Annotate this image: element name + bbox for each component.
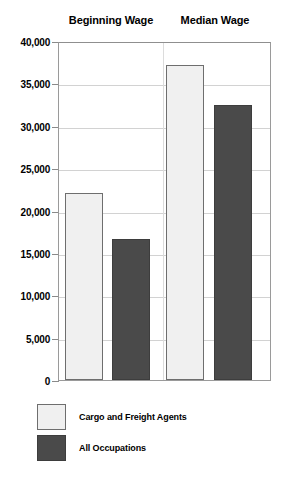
- legend-label-cargo-and-freight-agents: Cargo and Freight Agents: [79, 412, 187, 422]
- bar: [112, 239, 150, 380]
- y-axis-tick-label: 0: [0, 376, 50, 387]
- group-header-beginning-wage: Beginning Wage: [56, 14, 166, 26]
- legend-label-all-occupations: All Occupations: [79, 443, 146, 453]
- y-axis-tick-label: 35,000: [0, 79, 50, 90]
- y-axis-tick-label: 15,000: [0, 248, 50, 259]
- bar-chart: Beginning Wage Median Wage 05,00010,0001…: [0, 0, 288, 479]
- y-axis-tick-label: 20,000: [0, 206, 50, 217]
- group-header-median-wage: Median Wage: [160, 14, 270, 26]
- gridline: [59, 85, 270, 86]
- bar: [65, 193, 103, 380]
- y-axis-tick-label: 30,000: [0, 121, 50, 132]
- bar: [166, 65, 204, 380]
- y-axis-tick-label: 40,000: [0, 37, 50, 48]
- y-axis-tick-label: 10,000: [0, 291, 50, 302]
- plot-area: [58, 42, 271, 381]
- legend-swatch-light-icon: [37, 404, 66, 430]
- legend-swatch-dark-icon: [37, 435, 66, 461]
- y-axis-tick-label: 25,000: [0, 164, 50, 175]
- category-divider: [163, 43, 164, 380]
- y-axis-tick-label: 5,000: [0, 333, 50, 344]
- group-header-row: Beginning Wage Median Wage: [58, 14, 271, 32]
- bar: [214, 105, 252, 380]
